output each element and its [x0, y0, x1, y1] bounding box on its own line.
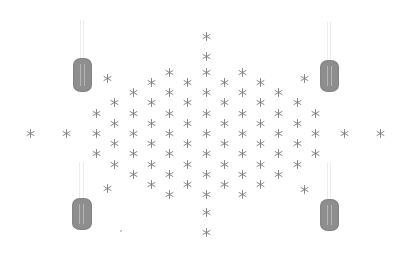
asterisk-marker-icon [202, 208, 211, 217]
asterisk-marker-icon [147, 98, 156, 107]
asterisk-marker-icon [202, 109, 211, 118]
stray-dot [120, 230, 122, 232]
asterisk-marker-icon [238, 129, 247, 138]
asterisk-marker-icon [238, 170, 247, 179]
asterisk-marker-icon [256, 160, 265, 169]
asterisk-marker-icon [274, 129, 283, 138]
asterisk-marker-icon [183, 78, 192, 87]
asterisk-marker-icon [340, 129, 349, 138]
cylinder-top-left [73, 58, 92, 92]
asterisk-marker-icon [274, 109, 283, 118]
asterisk-marker-icon [238, 109, 247, 118]
asterisk-marker-icon [103, 74, 112, 83]
wire-line [83, 162, 84, 198]
asterisk-marker-icon [165, 129, 174, 138]
asterisk-marker-icon [202, 129, 211, 138]
asterisk-marker-icon [202, 68, 211, 77]
asterisk-marker-icon [220, 119, 229, 128]
asterisk-marker-icon [183, 98, 192, 107]
asterisk-marker-icon [220, 98, 229, 107]
asterisk-marker-icon [183, 180, 192, 189]
wire-line [327, 163, 328, 199]
asterisk-marker-icon [256, 139, 265, 148]
asterisk-marker-icon [147, 160, 156, 169]
asterisk-marker-icon [165, 170, 174, 179]
asterisk-marker-icon [256, 180, 265, 189]
asterisk-marker-icon [293, 119, 302, 128]
asterisk-marker-icon [256, 98, 265, 107]
asterisk-marker-icon [238, 68, 247, 77]
wire-line [79, 162, 80, 198]
asterisk-marker-icon [202, 32, 211, 41]
cylinder-bottom-right [320, 199, 339, 231]
asterisk-marker-icon [110, 160, 119, 169]
asterisk-marker-icon [311, 149, 320, 158]
asterisk-marker-icon [147, 119, 156, 128]
asterisk-marker-icon [311, 129, 320, 138]
asterisk-marker-icon [256, 119, 265, 128]
asterisk-marker-icon [92, 149, 101, 158]
asterisk-marker-icon [147, 78, 156, 87]
wire-line [83, 20, 84, 58]
asterisk-marker-icon [110, 98, 119, 107]
cylinder-top-right [320, 60, 339, 92]
asterisk-marker-icon [62, 129, 71, 138]
asterisk-marker-icon [103, 184, 112, 193]
asterisk-marker-icon [165, 149, 174, 158]
asterisk-marker-icon [183, 160, 192, 169]
asterisk-marker-icon [220, 78, 229, 87]
asterisk-marker-icon [129, 88, 138, 97]
asterisk-marker-icon [110, 119, 119, 128]
wire-line [330, 163, 331, 199]
asterisk-marker-icon [165, 190, 174, 199]
asterisk-marker-icon [274, 88, 283, 97]
asterisk-marker-icon [110, 139, 119, 148]
asterisk-marker-icon [129, 170, 138, 179]
asterisk-marker-icon [202, 88, 211, 97]
asterisk-marker-icon [293, 160, 302, 169]
wire-line [327, 22, 328, 60]
asterisk-marker-icon [274, 149, 283, 158]
asterisk-marker-icon [376, 129, 385, 138]
asterisk-marker-icon [220, 180, 229, 189]
asterisk-marker-icon [129, 109, 138, 118]
asterisk-marker-icon [300, 74, 309, 83]
asterisk-marker-icon [238, 190, 247, 199]
wire-line [330, 22, 331, 60]
asterisk-marker-icon [165, 88, 174, 97]
asterisk-marker-icon [220, 139, 229, 148]
sensor-array-diagram [0, 0, 412, 260]
asterisk-marker-icon [274, 170, 283, 179]
asterisk-marker-icon [92, 109, 101, 118]
asterisk-marker-icon [26, 129, 35, 138]
asterisk-marker-icon [293, 139, 302, 148]
asterisk-marker-icon [293, 98, 302, 107]
asterisk-marker-icon [202, 228, 211, 237]
asterisk-marker-icon [238, 149, 247, 158]
asterisk-marker-icon [256, 78, 265, 87]
asterisk-marker-icon [202, 170, 211, 179]
asterisk-marker-icon [202, 52, 211, 61]
asterisk-marker-icon [129, 149, 138, 158]
asterisk-marker-icon [165, 109, 174, 118]
asterisk-marker-icon [220, 160, 229, 169]
asterisk-marker-icon [183, 119, 192, 128]
asterisk-marker-icon [183, 139, 192, 148]
cylinder-bottom-left [72, 198, 92, 230]
asterisk-marker-icon [238, 88, 247, 97]
asterisk-marker-icon [147, 180, 156, 189]
asterisk-marker-icon [147, 139, 156, 148]
asterisk-marker-icon [300, 185, 309, 194]
asterisk-marker-icon [92, 129, 101, 138]
wire-line [80, 20, 81, 58]
asterisk-marker-icon [202, 190, 211, 199]
asterisk-marker-icon [311, 109, 320, 118]
asterisk-marker-icon [165, 68, 174, 77]
asterisk-marker-icon [202, 149, 211, 158]
asterisk-marker-icon [129, 129, 138, 138]
